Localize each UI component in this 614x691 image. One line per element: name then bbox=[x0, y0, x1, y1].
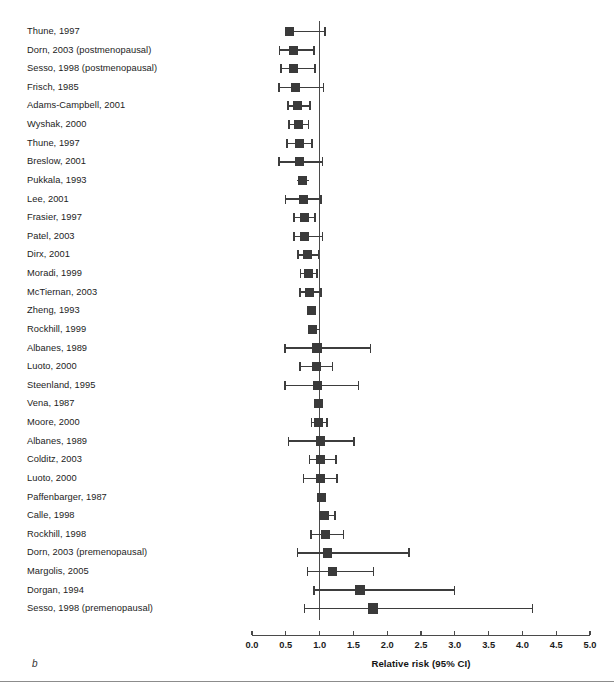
x-axis-tick-label: 5.0 bbox=[573, 640, 607, 650]
x-axis-tick bbox=[387, 631, 388, 635]
x-axis-tick-label: 1.0 bbox=[303, 640, 337, 650]
x-axis-tick bbox=[556, 631, 557, 635]
x-axis-tick-label: 3.5 bbox=[472, 640, 506, 650]
x-axis-tick bbox=[488, 631, 489, 635]
x-axis-tick-label: 2.5 bbox=[404, 640, 438, 650]
panel-letter: b bbox=[32, 658, 38, 669]
x-axis-tick bbox=[319, 631, 320, 635]
x-axis: 0.00.51.01.52.02.53.03.54.04.55.0 bbox=[0, 0, 614, 691]
x-axis-tick-label: 4.0 bbox=[505, 640, 539, 650]
x-axis-tick-label: 4.5 bbox=[539, 640, 573, 650]
x-axis-tick-label: 2.0 bbox=[370, 640, 404, 650]
forest-plot-figure: Thune, 1997Dorn, 2003 (postmenopausal)Se… bbox=[0, 0, 614, 691]
x-axis-tick bbox=[420, 631, 421, 635]
x-axis-tick bbox=[589, 631, 590, 635]
x-axis-tick bbox=[454, 631, 455, 635]
x-axis-tick bbox=[353, 631, 354, 635]
x-axis-tick bbox=[285, 631, 286, 635]
x-axis-line bbox=[252, 635, 590, 636]
x-axis-tick-label: 3.0 bbox=[438, 640, 472, 650]
x-axis-tick-label: 0.5 bbox=[269, 640, 303, 650]
footer-divider bbox=[0, 681, 614, 682]
x-axis-tick-label: 1.5 bbox=[336, 640, 370, 650]
x-axis-tick bbox=[522, 631, 523, 635]
x-axis-tick bbox=[251, 631, 252, 635]
x-axis-title: Relative risk (95% CI) bbox=[252, 658, 590, 669]
x-axis-tick-label: 0.0 bbox=[235, 640, 269, 650]
